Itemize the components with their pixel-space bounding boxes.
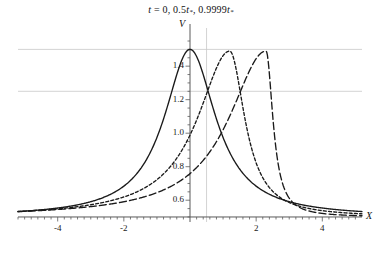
x-tick-label: -4 [49, 223, 67, 233]
x-tick-label: 4 [313, 223, 331, 233]
plot-area [0, 0, 382, 255]
y-tick-label: 1.2 [158, 94, 184, 104]
x-tick-label: -2 [115, 223, 133, 233]
axis-ticks [18, 41, 355, 221]
x-tick-label: 2 [247, 223, 265, 233]
y-tick-label: 0.6 [158, 194, 184, 204]
chart-figure: t = 0, 0.5t*, 0.9999t* V X -4-2240.60.81… [0, 0, 382, 255]
y-tick-label: 1.4 [158, 60, 184, 70]
y-tick-label: 1.0 [158, 127, 184, 137]
y-tick-label: 0.8 [158, 161, 184, 171]
axes [18, 24, 362, 222]
